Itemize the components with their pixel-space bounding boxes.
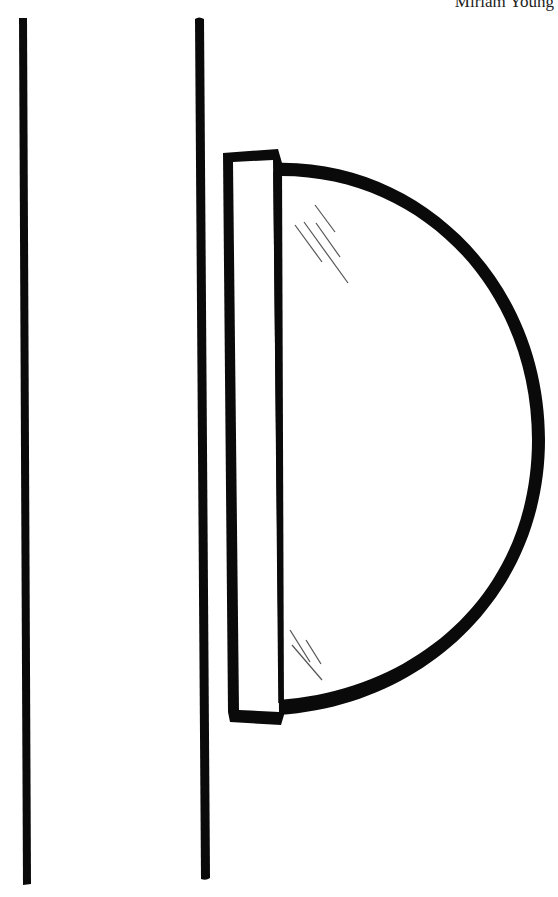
right-vertical-line bbox=[195, 18, 210, 880]
mirror-drawing bbox=[0, 0, 558, 897]
illustration-page: Miriam Young bbox=[0, 0, 558, 897]
left-vertical-line bbox=[19, 18, 31, 885]
mirror-mount-plate-inner bbox=[233, 160, 279, 712]
glint-lines-top bbox=[295, 205, 348, 283]
glint-lines-bottom bbox=[290, 630, 322, 680]
mirror-dome-outline bbox=[274, 163, 545, 715]
